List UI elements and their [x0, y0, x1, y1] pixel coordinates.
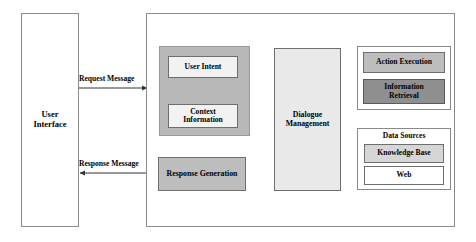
information-retrieval-box[interactable]: Information Retrieval: [363, 79, 445, 104]
user-interface-box[interactable]: User Interface: [21, 13, 79, 227]
user-intent-label: User Intent: [185, 63, 222, 72]
response-generation-label: Response Generation: [167, 170, 238, 179]
action-execution-label: Action Execution: [376, 58, 432, 67]
response-message-label: Response Message: [79, 159, 139, 168]
dialogue-management-box[interactable]: Dialogue Management: [274, 48, 341, 191]
context-information-box[interactable]: Context Information: [168, 104, 238, 128]
data-sources-label: Data Sources: [357, 131, 451, 140]
context-information-label: Context Information: [183, 108, 223, 125]
user-intent-box[interactable]: User Intent: [168, 56, 238, 78]
web-box[interactable]: Web: [364, 166, 444, 185]
dialogue-management-label: Dialogue Management: [286, 111, 330, 128]
action-execution-box[interactable]: Action Execution: [363, 52, 445, 73]
request-message-label: Request Message: [79, 74, 134, 83]
response-generation-box[interactable]: Response Generation: [158, 157, 246, 191]
user-interface-label: User Interface: [33, 110, 66, 129]
diagram-canvas: User Interface User Intent Context Infor…: [0, 0, 476, 242]
information-retrieval-label: Information Retrieval: [384, 83, 424, 100]
knowledge-base-label: Knowledge Base: [377, 149, 430, 158]
web-label: Web: [397, 171, 412, 180]
knowledge-base-box[interactable]: Knowledge Base: [364, 144, 444, 163]
